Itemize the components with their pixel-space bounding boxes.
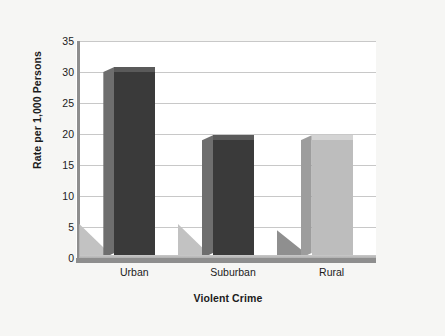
y-axis-tick-label: 5 (52, 221, 74, 233)
y-axis-tick-label: 25 (52, 97, 74, 109)
chart-page: Rate per 1,000 Persons 05101520253035 Ur… (0, 0, 445, 336)
y-axis-title: Rate per 1,000 Persons (31, 25, 43, 195)
bar-front-face (114, 72, 155, 258)
plot-area (80, 41, 376, 258)
x-axis-title: Violent Crime (80, 292, 376, 304)
bar-side-face (202, 135, 213, 258)
y-axis-tick-labels: 05101520253035 (52, 41, 74, 258)
y-axis-tick-label: 0 (52, 252, 74, 264)
bar-column[interactable] (103, 41, 155, 258)
bar-column[interactable] (202, 41, 254, 258)
y-axis-tick-label: 30 (52, 66, 74, 78)
x-axis-spine (76, 258, 376, 263)
x-axis-tick-label: Rural (319, 266, 344, 278)
y-axis-tick-label: 15 (52, 159, 74, 171)
x-axis-tick-label: Suburban (210, 266, 256, 278)
x-axis-tick-label: Urban (120, 266, 149, 278)
y-axis-tick-label: 35 (52, 35, 74, 47)
y-axis-tick-label: 20 (52, 128, 74, 140)
bar-column[interactable] (301, 41, 353, 258)
bar-side-face (301, 135, 312, 258)
bar-front-face (312, 140, 353, 258)
bar-front-face (213, 140, 254, 258)
x-axis-tick-labels: UrbanSuburbanRural (80, 266, 376, 282)
bar-side-face (103, 67, 114, 258)
y-axis-tick-label: 10 (52, 190, 74, 202)
